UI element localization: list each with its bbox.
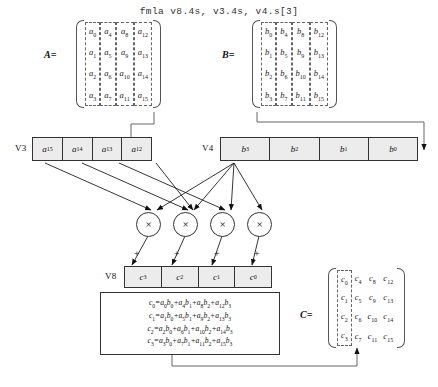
matrix-cell: b13 [312,45,326,61]
matrix-cell: b1 [263,45,274,61]
accumulate-plus-3: + [254,248,260,259]
matrix-cell: b5 [278,45,289,61]
matrix-c-column-2: c8 c9 c10 c11 [365,270,381,346]
matrix-b-column-0: b0 b1 b2 b3 [261,22,276,106]
matrix-b: b0 b1 b2 b3 b4 b5 b6 b7 b8 b9 b10 b11 b1… [252,20,337,108]
matrix-cell: b10 [294,67,308,83]
register-v3-lane-3: a12 [122,138,151,160]
matrix-cell: c2 [339,310,350,326]
matrix-cell: c5 [353,290,364,306]
connector-v3-to-multipliers [45,163,225,210]
formula-row-2: c2=a2b0+a6b1+a10b2+a14b3 [147,324,232,337]
matrix-cell: a6 [102,67,113,83]
matrix-b-column-1: b4 b5 b6 b7 [276,22,291,106]
matrix-cell: c0 [339,272,350,288]
multiplier-3: × [247,212,272,237]
register-v3-lane-0: a15 [33,138,63,160]
matrix-cell: c8 [366,271,380,287]
diagram-canvas: fmla v8.4s, v3.4s, v4.s[3] A= a0 a1 a2 a… [0,0,438,387]
matrix-cell: b8 [294,24,308,40]
matrix-a: a0 a1 a2 a3 a4 a5 a6 a7 a8 a9 a10 a11 a1… [76,20,161,108]
formula-row-1: c1=a1b0+a5b1+a9b2+a13b3 [149,311,231,324]
matrix-cell: a3 [87,88,98,104]
matrix-cell: a2 [87,67,98,83]
matrix-cell: a5 [102,45,113,61]
matrix-c: c0 c1 c2 c3 c4 c5 c6 c7 c8 c9 c10 c11 c1… [328,268,405,348]
matrix-cell: c7 [353,329,364,345]
matrix-cell: c10 [366,310,380,326]
matrix-a-label: A= [44,44,56,62]
matrix-cell: a12 [136,24,150,40]
register-v8-lane-2: c1 [199,267,236,287]
register-v8-lane-3: c0 [235,267,271,287]
matrix-c-column-0: c0 c1 c2 c3 [337,270,352,346]
register-v3: a15 a14 a13 a12 [32,137,152,161]
matrix-a-column-2: a8 a9 a10 a11 [116,22,134,106]
register-v8: c3 c2 c1 c0 [124,266,272,288]
matrix-cell: a14 [136,67,150,83]
matrix-cell: b3 [263,88,274,104]
instruction-title: fmla v8.4s, v3.4s, v4.s[3] [0,6,438,17]
register-v3-lane-1: a14 [63,138,93,160]
matrix-b-column-2: b8 b9 b10 b11 [292,22,310,106]
matrix-cell: b6 [278,67,289,83]
matrix-cell: a1 [87,45,98,61]
matrix-cell: b12 [312,24,326,40]
matrix-cell: c11 [366,329,380,345]
matrix-c-label: C= [300,304,312,322]
matrix-cell: a8 [118,24,132,40]
matrix-cell: a7 [102,88,113,104]
accumulate-plus-1: + [174,248,180,259]
matrix-cell: a11 [118,88,132,104]
register-v4-lane-1: b2 [270,138,319,160]
matrix-cell: a9 [118,45,132,61]
matrix-cell: b4 [278,24,289,40]
matrix-cell: c9 [366,290,380,306]
matrix-cell: b9 [294,45,308,61]
matrix-cell: b15 [312,88,326,104]
register-v8-lane-1: c2 [162,267,199,287]
matrix-b-column-3: b12 b13 b14 b15 [310,22,328,106]
matrix-cell: a13 [136,45,150,61]
register-v4-lane-2: b1 [320,138,369,160]
matrix-cell: c6 [353,310,364,326]
matrix-cell: a4 [102,24,113,40]
register-v4-lane-3: b0 [369,138,417,160]
matrix-a-column-0: a0 a1 a2 a3 [85,22,100,106]
register-v4: b3 b2 b1 b0 [220,137,418,161]
register-v8-lane-0: c3 [125,267,162,287]
matrix-cell: c3 [339,328,350,344]
matrix-bracket-right [397,268,405,348]
matrix-bracket-right [329,20,337,108]
matrix-cell: b11 [294,88,308,104]
connector-multipliers-to-v8 [132,236,259,265]
matrix-bracket-left [328,268,336,348]
matrix-cell: b7 [278,88,289,104]
multiplier-0: × [136,212,161,237]
matrix-cell: a10 [118,67,132,83]
register-v3-label: V3 [15,143,27,153]
matrix-c-column-3: c12 c13 c14 c15 [380,270,396,346]
register-v8-label: V8 [105,271,117,281]
accumulate-plus-0: + [134,248,140,259]
matrix-cell: c15 [381,329,395,345]
register-v3-lane-2: a13 [93,138,123,160]
matrix-a-column-1: a4 a5 a6 a7 [100,22,115,106]
matrix-cell: b0 [263,24,274,40]
accumulate-plus-2: + [214,248,220,259]
register-v4-label: V4 [202,143,214,153]
matrix-cell: a15 [136,88,150,104]
matrix-cell: c1 [339,291,350,307]
formula-box: c0=a0b0+a4b1+a8b2+a12b3 c1=a1b0+a5b1+a9b… [100,292,280,355]
formula-row-0: c0=a0b0+a4b1+a8b2+a12b3 [149,298,231,311]
matrix-bracket-right [153,20,161,108]
multiplier-2: × [210,212,235,237]
matrix-cell: c12 [381,271,395,287]
matrix-cell: c14 [381,310,395,326]
matrix-bracket-left [252,20,260,108]
matrix-cell: c4 [353,271,364,287]
matrix-cell: c13 [381,290,395,306]
matrix-cell: b2 [263,67,274,83]
matrix-b-label: B= [222,44,234,62]
multiplier-1: × [173,212,198,237]
